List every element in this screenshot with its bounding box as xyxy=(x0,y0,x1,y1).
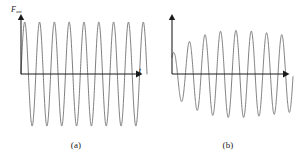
forced-oscillation-figure: Fext t (a) y t (b) xyxy=(0,0,304,168)
panel-a-y-axis-label: Fext xyxy=(11,6,21,14)
panel-a-caption: (a) xyxy=(0,140,152,150)
panel-a-plot xyxy=(0,0,152,146)
panel-a-x-axis-label: t xyxy=(139,67,141,75)
panel-b-caption: (b) xyxy=(152,140,304,150)
panel-b-axes xyxy=(169,14,290,77)
panel-a: Fext t (a) xyxy=(0,0,152,168)
panel-b-plot xyxy=(152,0,304,146)
panel-a-y-axis-subscript: ext xyxy=(16,9,21,14)
panel-b: y t (b) xyxy=(152,0,304,168)
